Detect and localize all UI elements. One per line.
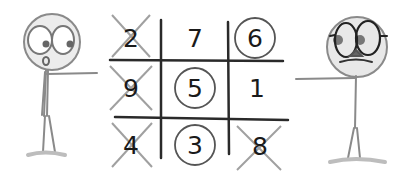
left-eye: [28, 26, 52, 54]
right-eye: [52, 26, 74, 54]
cell-1-1: 5: [187, 74, 203, 103]
cell-2-2: 8: [252, 132, 268, 161]
cell-1-2: 1: [249, 74, 265, 103]
right-player-arm: [296, 78, 355, 79]
illustration: 2 7 6 9 5 1 4 3 8: [0, 0, 410, 183]
cell-0-1: 7: [187, 24, 203, 53]
cell-2-1: 3: [187, 131, 203, 160]
cell-0-2: 6: [247, 24, 263, 53]
right-player: [296, 17, 387, 162]
cell-0-0: 2: [123, 24, 139, 53]
cell-1-0: 9: [123, 74, 139, 103]
cell-2-0: 4: [123, 131, 139, 160]
left-player: [24, 14, 97, 155]
left-player-arm: [47, 73, 97, 74]
